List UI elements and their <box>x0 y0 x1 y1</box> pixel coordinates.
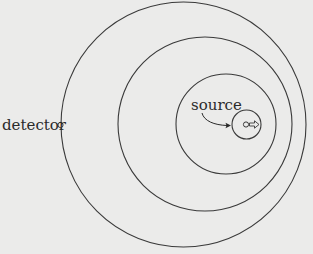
diagram-canvas: detector source <box>0 0 313 254</box>
source-label: source <box>191 96 242 114</box>
pointer-arrow-icon <box>202 113 231 128</box>
source-point-icon <box>243 122 248 127</box>
motion-arrow-icon <box>250 121 260 128</box>
wavefront-second <box>118 37 292 211</box>
detector-label: detector <box>2 116 67 134</box>
wavefront-outer <box>61 2 306 247</box>
